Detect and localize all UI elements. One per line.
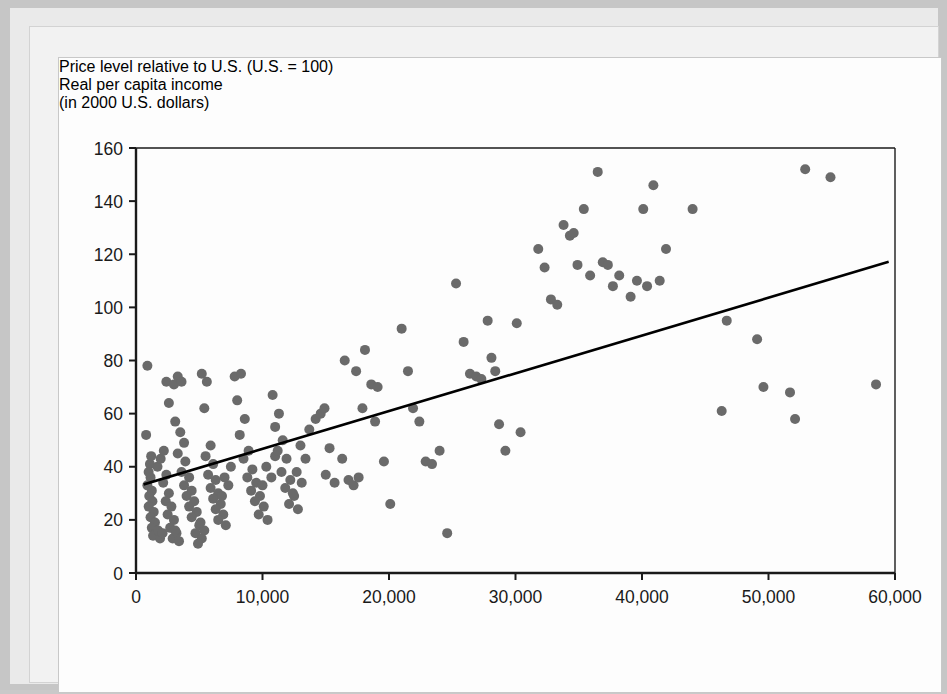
- scatter-point: [141, 430, 151, 440]
- scatter-point: [193, 539, 203, 549]
- scatter-point: [196, 518, 206, 528]
- scatter-point: [246, 486, 256, 496]
- scatter-point: [593, 167, 603, 177]
- scatter-point: [357, 403, 367, 413]
- scatter-point: [825, 172, 835, 182]
- scatter-point: [351, 366, 361, 376]
- scatter-point: [785, 387, 795, 397]
- scatter-points-group: [141, 164, 881, 549]
- y-tick-label: 20: [104, 510, 124, 530]
- scatter-point: [442, 528, 452, 538]
- scatter-point: [142, 361, 152, 371]
- scatter-point: [370, 417, 380, 427]
- scatter-point: [397, 324, 407, 334]
- scatter-point: [483, 316, 493, 326]
- scatter-point: [559, 220, 569, 230]
- scatter-point: [220, 472, 230, 482]
- scatter-point: [170, 417, 180, 427]
- x-tick-label: 10,000: [236, 587, 290, 607]
- scatter-point: [221, 520, 231, 530]
- scatter-point: [459, 337, 469, 347]
- scatter-point: [273, 446, 283, 456]
- scatter-point: [179, 438, 189, 448]
- scatter-point: [486, 353, 496, 363]
- y-tick-label: 40: [104, 457, 124, 477]
- scatter-point: [177, 377, 187, 387]
- scatter-point: [270, 422, 280, 432]
- y-tick-label: 140: [94, 192, 123, 212]
- scatter-point: [258, 480, 268, 490]
- scatter-point: [642, 281, 652, 291]
- scatter-point: [661, 244, 671, 254]
- scatter-point: [288, 488, 298, 498]
- scatter-point: [626, 292, 636, 302]
- scatter-point: [512, 318, 522, 328]
- scatter-point: [752, 334, 762, 344]
- scatter-point: [579, 204, 589, 214]
- scatter-point: [648, 180, 658, 190]
- scatter-point: [146, 451, 156, 461]
- scatter-point: [199, 403, 209, 413]
- scatter-point: [295, 441, 305, 451]
- scatter-point: [632, 276, 642, 286]
- x-tick-label: 50,000: [742, 587, 796, 607]
- x-tick-label: 20,000: [362, 587, 416, 607]
- scatter-point: [282, 454, 292, 464]
- y-tick-label: 60: [104, 404, 124, 424]
- scatter-point: [569, 228, 579, 238]
- scatter-point: [414, 417, 424, 427]
- scatter-point: [435, 446, 445, 456]
- figure-inner-mat: 020406080100120140160010,00020,00030,000…: [29, 26, 939, 683]
- scatter-point: [235, 430, 245, 440]
- scatter-point: [722, 316, 732, 326]
- scatter-point: [226, 462, 236, 472]
- scatter-point: [340, 356, 350, 366]
- scatter-point: [608, 281, 618, 291]
- scatter-point: [261, 462, 271, 472]
- scatter-point: [790, 414, 800, 424]
- scatter-point: [254, 510, 264, 520]
- scatter-point: [638, 204, 648, 214]
- x-tick-label: 60,000: [868, 587, 922, 607]
- scatter-point: [242, 472, 252, 482]
- scatter-point: [173, 448, 183, 458]
- scatter-point: [206, 441, 216, 451]
- trendline: [145, 262, 888, 484]
- scatter-point: [427, 459, 437, 469]
- scatter-point: [159, 446, 169, 456]
- scatter-point: [266, 472, 276, 482]
- scatter-point: [174, 536, 184, 546]
- scatter-point: [292, 467, 302, 477]
- scatter-point: [655, 276, 665, 286]
- scatter-point: [373, 382, 383, 392]
- scatter-point: [800, 164, 810, 174]
- scatter-point: [585, 271, 595, 281]
- scatter-point: [717, 406, 727, 416]
- scatter-point: [232, 395, 242, 405]
- scatter-point: [758, 382, 768, 392]
- y-tick-label: 120: [94, 245, 123, 265]
- figure-outer-mat: 020406080100120140160010,00020,00030,000…: [10, 8, 938, 684]
- scatter-point: [451, 278, 461, 288]
- x-tick-label: 30,000: [489, 587, 543, 607]
- scatter-point: [250, 496, 260, 506]
- scatter-point: [164, 398, 174, 408]
- scatter-point: [217, 491, 227, 501]
- scatter-point: [516, 427, 526, 437]
- x-tick-label: 0: [131, 587, 141, 607]
- scatter-point: [180, 456, 190, 466]
- scatter-point: [319, 403, 329, 413]
- chart-svg: 020406080100120140160010,00020,00030,000…: [59, 58, 943, 694]
- scatter-point: [284, 499, 294, 509]
- scatter-point: [552, 300, 562, 310]
- scatter-point: [379, 456, 389, 466]
- scatter-point: [490, 366, 500, 376]
- scatter-point: [403, 366, 413, 376]
- scatter-point: [540, 263, 550, 273]
- y-tick-label: 100: [94, 298, 123, 318]
- scatter-point: [688, 204, 698, 214]
- scatter-point: [236, 369, 246, 379]
- scatter-point: [268, 390, 278, 400]
- scatter-point: [603, 260, 613, 270]
